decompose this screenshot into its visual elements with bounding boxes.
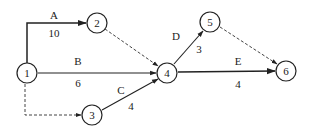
node-5-label: 5 [207, 16, 213, 28]
node-6: 6 [276, 61, 296, 81]
activity-c-duration: 4 [128, 100, 134, 112]
activity-b-name: B [74, 55, 81, 67]
activity-a-name: A [50, 9, 58, 21]
node-2-label: 2 [94, 17, 100, 29]
dummy-arrow-1-3 [25, 84, 81, 115]
node-1: 1 [17, 63, 37, 83]
activity-d-name: D [172, 30, 180, 42]
network-diagram: A 10 B 6 C 4 D 3 E 4 1 2 3 4 5 6 [0, 0, 311, 134]
activity-e-name: E [235, 55, 242, 67]
node-2: 2 [87, 13, 107, 33]
activity-a-duration: 10 [49, 27, 61, 39]
activity-d-duration: 3 [196, 43, 202, 55]
dummy-arrow-5-6 [220, 27, 277, 64]
node-5: 5 [200, 12, 220, 32]
node-4-label: 4 [164, 67, 170, 79]
dummy-arrow-2-4 [105, 29, 158, 66]
node-6-label: 6 [283, 65, 289, 77]
node-3-label: 3 [89, 109, 95, 121]
node-1-label: 1 [24, 67, 30, 79]
activity-e-duration: 4 [235, 78, 241, 90]
node-4: 4 [157, 63, 177, 83]
activity-b-duration: 6 [75, 77, 81, 89]
node-3: 3 [82, 105, 102, 125]
activity-c-name: C [117, 84, 124, 96]
arrow-activity-e [178, 71, 275, 72]
